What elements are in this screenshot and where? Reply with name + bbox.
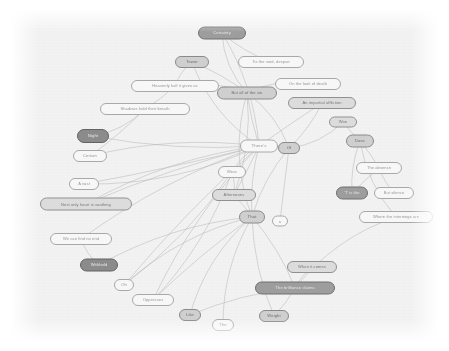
graph-node-label: Nest only heart is soothing	[61, 202, 111, 206]
graph-node[interactable]: Night	[77, 129, 109, 143]
graph-node-label: That	[248, 215, 257, 219]
graph-node[interactable]: The	[212, 319, 234, 331]
graph-node[interactable]: The brilliance claims	[255, 282, 335, 295]
graph-node[interactable]: Withhold	[80, 259, 118, 272]
graph-node-label: Certainty	[213, 31, 231, 35]
graph-node-label: But silence	[384, 191, 405, 195]
graph-node[interactable]: Oh	[114, 279, 134, 291]
graph-node-label: Oh	[121, 283, 127, 287]
graph-node-label: An impartial affliction	[302, 101, 341, 105]
graph-node-label: On the look of death	[289, 82, 327, 86]
graph-node-label: Won	[339, 120, 348, 124]
graph-node-label: Certain	[83, 154, 97, 158]
graph-node[interactable]: Heavenly hall it gives us	[131, 80, 219, 92]
graph-node[interactable]: The absence	[356, 162, 402, 174]
graph-node-label: Oppresses	[143, 298, 164, 302]
graph-node-label: Shadows hold their breath	[121, 107, 170, 111]
graph-node-label: Afternoons	[224, 193, 245, 197]
graph-node[interactable]: But silence	[374, 187, 414, 199]
graph-node-label: Like	[186, 313, 194, 317]
graph-node-label: 'T is the	[344, 191, 359, 195]
graph-node[interactable]: Oppresses	[132, 294, 174, 306]
graph-node-label: Heavenly hall it gives us	[152, 84, 197, 88]
graph-node[interactable]: Certain	[73, 150, 107, 162]
graph-node[interactable]: We can find no end	[50, 233, 112, 245]
graph-node[interactable]: There's	[240, 140, 278, 153]
graph-node-label: Of	[287, 146, 292, 150]
graph-node-label: Weight	[267, 314, 280, 318]
graph-node[interactable]: 'T is the	[336, 187, 368, 200]
graph-node[interactable]: But all of the sin	[217, 87, 277, 100]
graph-node-label: Tower	[186, 60, 198, 64]
graph-node[interactable]: Won	[329, 117, 357, 128]
graph-node[interactable]: Tis the void, despair	[238, 56, 304, 68]
graph-node[interactable]: That	[239, 211, 265, 224]
graph-app: CertaintyTis the void, despairTowerHeave…	[0, 0, 449, 351]
graph-node-label: When it comes	[298, 265, 326, 269]
graph-node[interactable]: When it comes	[287, 261, 337, 273]
graph-node-label: Withhold	[91, 263, 108, 267]
graph-node-label: Wear	[227, 170, 237, 174]
graph-node-label: There's	[251, 144, 266, 148]
graph-node[interactable]: An impartial affliction	[288, 97, 356, 109]
graph-node-label: But all of the sin	[232, 91, 263, 95]
graph-node[interactable]: Tower	[175, 56, 209, 68]
graph-node-label: The absence	[367, 166, 391, 170]
graph-node-layer: CertaintyTis the void, despairTowerHeave…	[12, 10, 437, 341]
graph-node-label: The brilliance claims	[275, 286, 314, 290]
graph-node-label: We can find no end	[63, 237, 99, 241]
graph-node[interactable]: Weight	[259, 310, 289, 322]
graph-node[interactable]: Afternoons	[212, 189, 256, 201]
graph-node[interactable]: Certainty	[198, 27, 246, 40]
graph-node-label: Does	[355, 139, 365, 143]
graph-node[interactable]: Of	[278, 142, 300, 154]
graph-node[interactable]: Where the internings are	[359, 211, 433, 223]
graph-node-label: Tis the void, despair	[252, 60, 290, 64]
graph-canvas[interactable]: CertaintyTis the void, despairTowerHeave…	[12, 10, 437, 341]
graph-node[interactable]: Shadows hold their breath	[100, 103, 190, 115]
graph-node-label: Where the internings are	[373, 215, 419, 219]
graph-node[interactable]: Does	[346, 135, 374, 148]
graph-node-label: A vast	[78, 182, 90, 186]
graph-node[interactable]: Wear	[218, 166, 246, 178]
graph-node[interactable]: Like	[179, 309, 201, 321]
graph-node-label: Night	[88, 134, 98, 138]
graph-node[interactable]: A vast	[69, 178, 99, 190]
graph-node[interactable]: Nest only heart is soothing	[40, 198, 132, 211]
graph-node[interactable]: On the look of death	[275, 78, 341, 90]
graph-node[interactable]: a	[272, 216, 288, 227]
graph-node-label: a	[279, 219, 281, 223]
graph-node-label: The	[219, 323, 226, 327]
